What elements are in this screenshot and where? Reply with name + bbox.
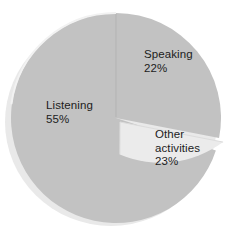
pie-chart-graphic	[0, 0, 237, 236]
pie-chart-figure: Listening 55% Speaking 22% Other activit…	[0, 0, 237, 236]
pie-slice-speaking	[116, 13, 221, 138]
